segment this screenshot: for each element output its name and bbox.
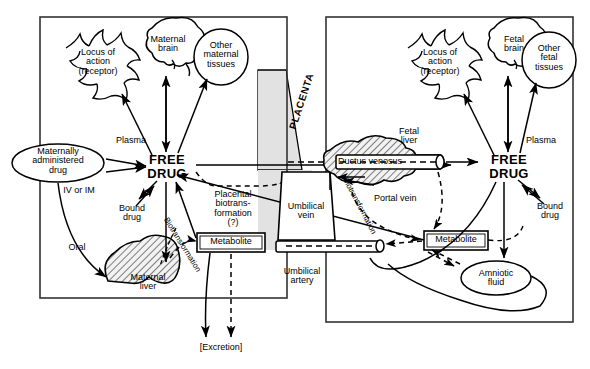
fetal-metabolite-return [488,222,524,241]
fetal-other-tissues-shape [522,32,576,88]
amniotic-fluid-shape [461,261,531,295]
fetal-locus-starburst [408,30,482,100]
umbilical-vein-vessel [278,172,335,240]
fetal-metabolite-box [424,231,488,250]
maternal-metabolite-box [197,233,265,252]
maternal-locus-starburst [66,30,140,100]
maternal-other-tissues-shape [194,29,248,85]
diagram-root: Locus of action (receptor) Maternal brai… [0,0,590,369]
diagram-canvas [0,0,590,369]
maternal-administered-drug-shape [12,144,104,182]
